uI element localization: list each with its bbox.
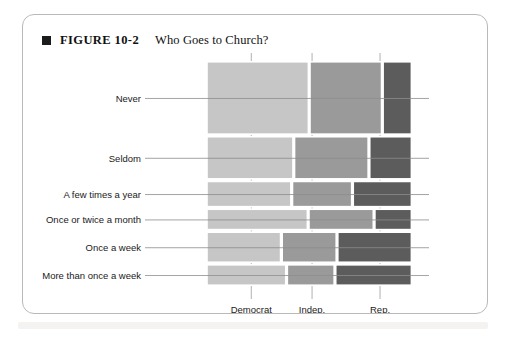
figure-card: FIGURE 10-2 Who Goes to Church? NeverSel… [22, 14, 488, 314]
mosaic-tile [207, 232, 281, 262]
mosaic-plot-svg: NeverSeldomA few times a yearOnce or twi… [23, 15, 488, 314]
page-bleed-line [18, 322, 488, 329]
mosaic-tile [338, 232, 412, 262]
y-axis-label: Once a week [86, 242, 142, 253]
mosaic-plot: NeverSeldomA few times a yearOnce or twi… [23, 15, 488, 314]
mosaic-tile [383, 62, 411, 134]
y-axis-label: Once or twice a month [46, 214, 141, 225]
mosaic-tile [292, 181, 351, 206]
y-axis-label: A few times a year [63, 189, 141, 200]
mosaic-tile [309, 209, 373, 229]
mosaic-tile [207, 62, 308, 134]
mosaic-tile [207, 137, 293, 179]
mosaic-tile [370, 137, 412, 179]
y-axis-label: Never [116, 93, 141, 104]
mosaic-tile [282, 232, 336, 262]
mosaic-tile [375, 209, 412, 229]
x-axis-label: Democrat [231, 304, 273, 314]
mosaic-tile [336, 265, 412, 285]
x-axis-label: Rep. [370, 304, 390, 314]
mosaic-tile [207, 181, 291, 206]
mosaic-tile [207, 265, 286, 285]
mosaic-tile [295, 137, 369, 179]
mosaic-tile [310, 62, 382, 134]
mosaic-tile [353, 181, 411, 206]
mosaic-tile [287, 265, 334, 285]
x-axis-label: Indep. [299, 304, 325, 314]
y-axis-label: More than once a week [42, 270, 141, 281]
y-axis-label: Seldom [109, 153, 141, 164]
mosaic-tile [207, 209, 307, 229]
